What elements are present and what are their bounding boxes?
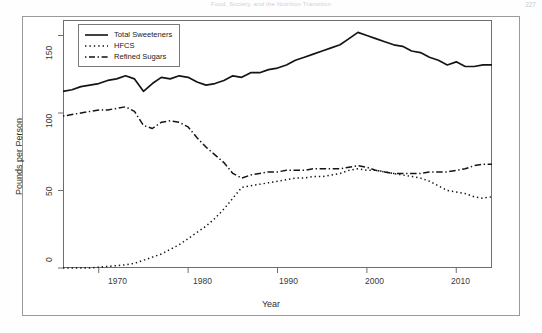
y-axis-title: Pounds per Person [14,118,24,195]
legend-item-refined-sugars: Refined Sugars [84,51,172,62]
legend-key-dashdot-icon [84,52,109,62]
legend-item-total-sweeteners: Total Sweeteners [84,29,172,40]
y-tick-50: 50 [44,187,54,196]
x-tick-1970: 1970 [108,276,127,286]
scanned-book-page: Food, Society, and the Nutrition Transit… [0,0,542,333]
x-axis-title: Year [0,299,542,309]
y-tick-0: 0 [44,257,54,262]
x-tick-2010: 2010 [451,276,470,286]
y-tick-150: 150 [44,46,54,60]
legend-item-hfcs: HFCS [84,40,172,51]
x-tick-1980: 1980 [193,276,212,286]
legend-key-dotted-icon [84,41,109,51]
legend-label-refined-sugars: Refined Sugars [114,52,166,62]
x-tick-1990: 1990 [279,276,298,286]
running-head: Food, Society, and the Nutrition Transit… [0,1,542,11]
x-tick-2000: 2000 [365,276,384,286]
legend-key-solid-icon [84,30,109,40]
legend: Total Sweeteners HFCS Refined Sugars [78,24,180,67]
legend-label-hfcs: HFCS [114,41,135,51]
page-number: 227 [525,1,536,8]
legend-label-total-sweeteners: Total Sweeteners [114,30,172,40]
y-tick-100: 100 [44,114,54,128]
